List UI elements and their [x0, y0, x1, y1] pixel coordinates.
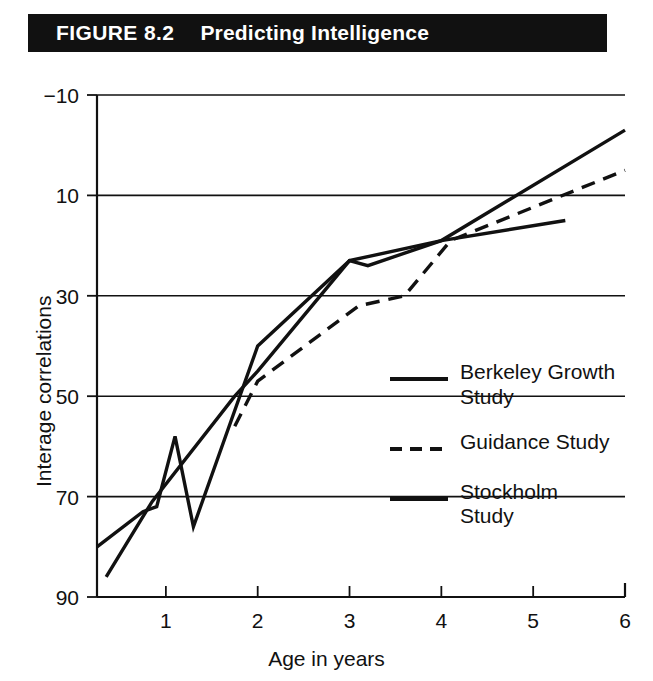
figure-root: FIGURE 8.2 Predicting Intelligence 90705… — [0, 0, 653, 681]
x-axis-title: Age in years — [0, 647, 653, 671]
legend-item-berkeley-growth-study: Berkeley Growth Study — [388, 360, 638, 410]
dashed-line-swatch-icon — [388, 439, 450, 460]
solid-line-swatch-icon — [388, 369, 450, 390]
x-axis-tick-label: 2 — [238, 610, 278, 631]
y-axis-tick-label: 90 — [19, 587, 79, 608]
x-axis-tick-label: 4 — [421, 610, 461, 631]
legend-item-label: Stockholm Study — [460, 480, 558, 530]
figure-title-text: Predicting Intelligence — [200, 21, 429, 45]
figure-number-label: FIGURE 8.2 — [56, 21, 174, 45]
x-axis-tick-label: 6 — [605, 610, 645, 631]
y-axis-tick-label: 70 — [19, 487, 79, 508]
solid-line-swatch-icon — [388, 489, 450, 510]
legend-item-label: Guidance Study — [460, 430, 609, 455]
legend-item-stockholm-study: Stockholm Study — [388, 480, 638, 530]
y-axis-tick-label: 10 — [19, 185, 79, 206]
x-axis-tick-label: 3 — [330, 610, 370, 631]
chart-container: 9070503010−10 123456 Age in years Intera… — [0, 52, 653, 681]
figure-title-banner: FIGURE 8.2 Predicting Intelligence — [28, 14, 607, 52]
chart-legend: Berkeley Growth Study Guidance Study Sto… — [388, 360, 638, 549]
x-axis-tick-label: 5 — [513, 610, 553, 631]
x-axis-tick-label: 1 — [146, 610, 186, 631]
y-axis-title: Interage correlations — [32, 296, 56, 487]
y-axis-tick-label: −10 — [19, 85, 79, 106]
legend-item-label: Berkeley Growth Study — [460, 360, 615, 410]
legend-item-guidance-study: Guidance Study — [388, 430, 638, 460]
